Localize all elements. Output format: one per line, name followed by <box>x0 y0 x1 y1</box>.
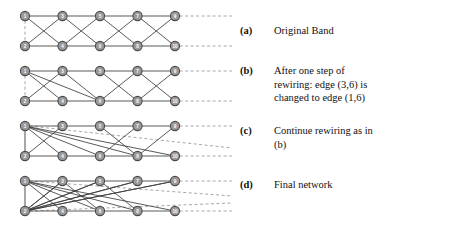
caption-line: (b) <box>274 138 439 152</box>
graph-node-label: 6 <box>99 99 102 104</box>
panel-c: 13579246810 <box>20 121 232 160</box>
caption-text: Final network <box>274 178 439 192</box>
caption-c: (c)Continue rewiring as in(b) <box>240 124 439 151</box>
graph-node-label: 7 <box>136 69 139 74</box>
graph-node-label: 6 <box>99 209 102 214</box>
graph-node-label: 1 <box>24 124 27 129</box>
graph-node-label: 10 <box>172 154 178 159</box>
caption-line: Continue rewiring as in <box>274 124 439 138</box>
graph-node-label: 4 <box>61 154 64 159</box>
graph-node-label: 5 <box>99 124 102 129</box>
graph-node-label: 8 <box>136 209 139 214</box>
graph-node-label: 3 <box>61 179 64 184</box>
graph-node-label: 6 <box>99 154 102 159</box>
graph-edge <box>63 181 101 211</box>
caption-line: After one step of <box>274 64 439 78</box>
caption-d: (d)Final network <box>240 178 439 192</box>
graph-node-label: 4 <box>61 44 64 49</box>
caption-label: (d) <box>240 178 274 192</box>
graph-node-label: 2 <box>24 209 27 214</box>
graph-node-label: 4 <box>61 209 64 214</box>
caption-label: (b) <box>240 64 274 78</box>
caption-line: Original Band <box>274 24 439 38</box>
graph-node-label: 7 <box>136 124 139 129</box>
graph-node-label: 9 <box>174 124 177 129</box>
graph-node-label: 7 <box>136 179 139 184</box>
graph-node-label: 2 <box>24 154 27 159</box>
caption-line: rewiring: edge (3,6) is <box>274 78 439 92</box>
graph-node-label: 10 <box>172 44 178 49</box>
caption-text: Original Band <box>274 24 439 38</box>
graph-node-label: 9 <box>174 179 177 184</box>
graph-node-label: 10 <box>172 209 178 214</box>
graph-node-label: 10 <box>172 99 178 104</box>
graph-node-label: 3 <box>61 69 64 74</box>
caption-column: (a)Original Band(b)After one step ofrewi… <box>240 0 459 239</box>
graph-node-label: 8 <box>136 99 139 104</box>
graph-node-label: 3 <box>61 14 64 19</box>
graph-node-label: 9 <box>174 69 177 74</box>
graph-node-label: 8 <box>136 44 139 49</box>
caption-b: (b)After one step ofrewiring: edge (3,6)… <box>240 64 439 105</box>
caption-a: (a)Original Band <box>240 24 439 38</box>
graph-edge <box>63 71 101 101</box>
graph-node-label: 4 <box>61 99 64 104</box>
caption-line: Final network <box>274 178 439 192</box>
graph-edge <box>138 126 176 156</box>
graph-node-label: 5 <box>99 69 102 74</box>
graph-edge <box>25 126 138 156</box>
panel-a: 13579246810 <box>20 11 232 50</box>
caption-label: (a) <box>240 24 274 38</box>
caption-line: changed to edge (1,6) <box>274 91 439 105</box>
graph-node-label: 3 <box>61 124 64 129</box>
panel-b: 13579246810 <box>20 66 232 105</box>
graph-node-label: 8 <box>136 154 139 159</box>
graph-node-label: 2 <box>24 99 27 104</box>
graph-node-label: 1 <box>24 69 27 74</box>
graph-node-label: 1 <box>24 179 27 184</box>
caption-text: After one step ofrewiring: edge (3,6) is… <box>274 64 439 105</box>
caption-text: Continue rewiring as in(b) <box>274 124 439 151</box>
graph-node-label: 1 <box>24 14 27 19</box>
network-rewiring-figure: 1357924681013579246810135792468101357924… <box>0 0 459 239</box>
graph-node-label: 7 <box>136 14 139 19</box>
panel-d: 13579246810 <box>20 176 232 215</box>
graph-node-label: 5 <box>99 14 102 19</box>
graph-node-label: 2 <box>24 44 27 49</box>
graph-node-label: 6 <box>99 44 102 49</box>
caption-label: (c) <box>240 124 274 138</box>
graph-edge <box>100 181 138 211</box>
graph-node-label: 9 <box>174 14 177 19</box>
graph-node-label: 5 <box>99 179 102 184</box>
